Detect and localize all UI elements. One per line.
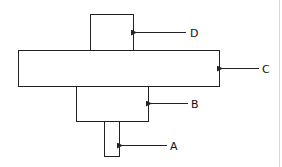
label-d: D [190, 27, 198, 40]
part-b [77, 87, 149, 122]
stacked-parts-diagram: D C B A [0, 0, 282, 167]
part-d [91, 15, 134, 51]
part-c [19, 51, 220, 87]
label-b: B [191, 98, 199, 111]
label-a: A [170, 140, 178, 153]
label-c: C [262, 63, 270, 76]
part-a [105, 122, 120, 157]
